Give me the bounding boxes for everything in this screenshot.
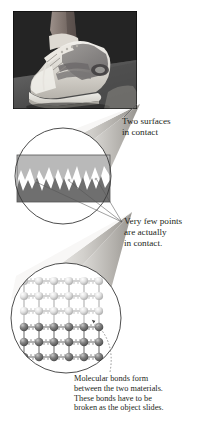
figure-svg xyxy=(0,0,215,429)
molecular-circle xyxy=(11,263,121,373)
sneaker-photograph xyxy=(13,11,137,112)
callout-two-surfaces: Two surfaces in contact xyxy=(122,116,171,138)
surface-contact-circle xyxy=(15,128,111,224)
figure-root: Two surfaces in contact Very few points … xyxy=(0,0,215,429)
callout-few-points: Very few points are actually in contact. xyxy=(124,216,182,249)
callout-molecular-bonds: Molecular bonds form between the two mat… xyxy=(74,374,164,413)
